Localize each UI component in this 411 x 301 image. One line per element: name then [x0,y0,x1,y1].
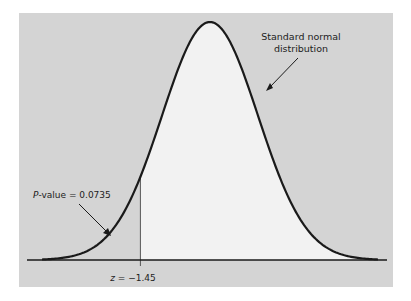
z-value-label: z = −1.45 [109,273,156,283]
normal-distribution-figure: Standard normal distribution P-value = 0… [0,0,411,301]
curve-label-line2: distribution [274,43,328,54]
curve-label-line1: Standard normal [261,31,341,42]
pvalue-label: P-value = 0.0735 [33,190,111,200]
